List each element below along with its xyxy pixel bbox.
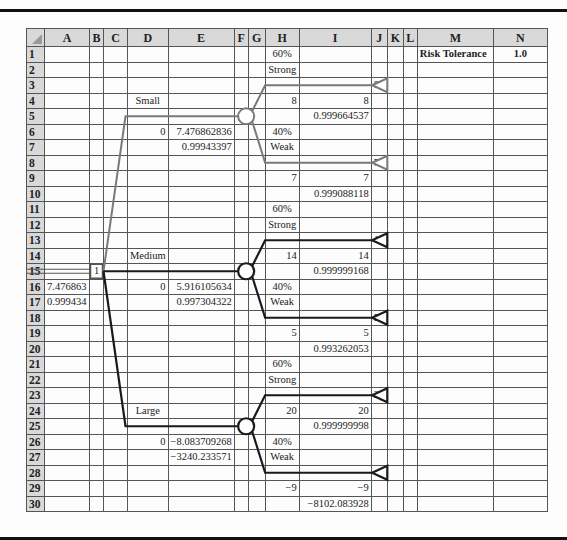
- cell-k14[interactable]: [387, 248, 403, 264]
- cell-m4[interactable]: [417, 93, 493, 109]
- cell-c24[interactable]: [104, 403, 128, 419]
- cell-m2[interactable]: [417, 62, 493, 78]
- cell-f23[interactable]: [234, 388, 248, 404]
- cell-a29[interactable]: [45, 481, 90, 497]
- cell-d21[interactable]: [128, 357, 169, 373]
- row-header-28[interactable]: 28: [27, 465, 45, 481]
- cell-g2[interactable]: [248, 62, 265, 78]
- cell-e8[interactable]: [168, 155, 234, 171]
- cell-n10[interactable]: [493, 186, 547, 202]
- cell-l7[interactable]: [403, 140, 417, 156]
- cell-l6[interactable]: [403, 124, 417, 140]
- cell-b26[interactable]: [90, 434, 104, 450]
- cell-i25[interactable]: 0.999999998: [299, 419, 371, 435]
- cell-d19[interactable]: [128, 326, 169, 342]
- cell-j16[interactable]: [371, 279, 387, 295]
- cell-e18[interactable]: [168, 310, 234, 326]
- cell-n25[interactable]: [493, 419, 547, 435]
- cell-l1[interactable]: [403, 47, 417, 63]
- row-header-26[interactable]: 26: [27, 434, 45, 450]
- cell-l18[interactable]: [403, 310, 417, 326]
- cell-m25[interactable]: [417, 419, 493, 435]
- column-header-g[interactable]: G: [248, 29, 265, 47]
- cell-h6[interactable]: 40%: [265, 124, 299, 140]
- cell-a11[interactable]: [45, 202, 90, 218]
- row-header-18[interactable]: 18: [27, 310, 45, 326]
- cell-e22[interactable]: [168, 372, 234, 388]
- cell-e28[interactable]: [168, 465, 234, 481]
- row-header-15[interactable]: 15: [27, 264, 45, 280]
- cell-k13[interactable]: [387, 233, 403, 249]
- cell-k25[interactable]: [387, 419, 403, 435]
- cell-e3[interactable]: [168, 78, 234, 94]
- column-header-c[interactable]: C: [104, 29, 128, 47]
- cell-e13[interactable]: [168, 233, 234, 249]
- cell-k2[interactable]: [387, 62, 403, 78]
- cell-h2[interactable]: Strong: [265, 62, 299, 78]
- cell-h9[interactable]: 7: [265, 171, 299, 187]
- cell-d2[interactable]: [128, 62, 169, 78]
- cell-a7[interactable]: [45, 140, 90, 156]
- cell-b5[interactable]: [90, 109, 104, 125]
- cell-n17[interactable]: [493, 295, 547, 311]
- cell-a22[interactable]: [45, 372, 90, 388]
- cell-l20[interactable]: [403, 341, 417, 357]
- cell-d15[interactable]: [128, 264, 169, 280]
- cell-f30[interactable]: [234, 496, 248, 512]
- cell-g14[interactable]: [248, 248, 265, 264]
- cell-a20[interactable]: [45, 341, 90, 357]
- cell-e11[interactable]: [168, 202, 234, 218]
- cell-j3[interactable]: 8: [371, 78, 387, 94]
- row-header-10[interactable]: 10: [27, 186, 45, 202]
- row-header-20[interactable]: 20: [27, 341, 45, 357]
- cell-c11[interactable]: [104, 202, 128, 218]
- cell-d1[interactable]: [128, 47, 169, 63]
- cell-h26[interactable]: 40%: [265, 434, 299, 450]
- cell-h15[interactable]: [265, 264, 299, 280]
- cell-f24[interactable]: [234, 403, 248, 419]
- cell-h24[interactable]: 20: [265, 403, 299, 419]
- cell-j6[interactable]: [371, 124, 387, 140]
- cell-m8[interactable]: [417, 155, 493, 171]
- cell-l23[interactable]: [403, 388, 417, 404]
- cell-h28[interactable]: [265, 465, 299, 481]
- column-header-i[interactable]: I: [299, 29, 371, 47]
- cell-b27[interactable]: [90, 450, 104, 466]
- cell-k29[interactable]: [387, 481, 403, 497]
- cell-d16[interactable]: 0: [128, 279, 169, 295]
- cell-g7[interactable]: [248, 140, 265, 156]
- row-header-3[interactable]: 3: [27, 78, 45, 94]
- cell-a1[interactable]: [45, 47, 90, 63]
- cell-e21[interactable]: [168, 357, 234, 373]
- cell-i24[interactable]: 20: [299, 403, 371, 419]
- cell-l10[interactable]: [403, 186, 417, 202]
- cell-h23[interactable]: [265, 388, 299, 404]
- cell-n2[interactable]: [493, 62, 547, 78]
- cell-h25[interactable]: [265, 419, 299, 435]
- cell-c13[interactable]: [104, 233, 128, 249]
- cell-g19[interactable]: [248, 326, 265, 342]
- cell-k15[interactable]: [387, 264, 403, 280]
- row-header-22[interactable]: 22: [27, 372, 45, 388]
- cell-l29[interactable]: [403, 481, 417, 497]
- cell-g29[interactable]: [248, 481, 265, 497]
- row-header-24[interactable]: 24: [27, 403, 45, 419]
- cell-h13[interactable]: [265, 233, 299, 249]
- row-header-6[interactable]: 6: [27, 124, 45, 140]
- cell-d9[interactable]: [128, 171, 169, 187]
- cell-h17[interactable]: Weak: [265, 295, 299, 311]
- cell-a25[interactable]: [45, 419, 90, 435]
- cell-c7[interactable]: [104, 140, 128, 156]
- cell-h8[interactable]: [265, 155, 299, 171]
- cell-n28[interactable]: [493, 465, 547, 481]
- cell-j4[interactable]: [371, 93, 387, 109]
- cell-k20[interactable]: [387, 341, 403, 357]
- cell-a21[interactable]: [45, 357, 90, 373]
- cell-i23[interactable]: [299, 388, 371, 404]
- cell-l27[interactable]: [403, 450, 417, 466]
- cell-e19[interactable]: [168, 326, 234, 342]
- cell-d4[interactable]: Small: [128, 93, 169, 109]
- cell-h1[interactable]: 60%: [265, 47, 299, 63]
- cell-a5[interactable]: [45, 109, 90, 125]
- column-header-n[interactable]: N: [493, 29, 547, 47]
